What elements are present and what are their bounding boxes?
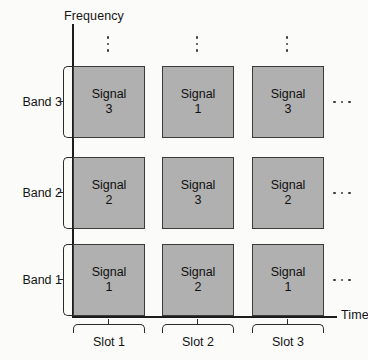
cell-band1-slot2-number: 2 — [195, 280, 202, 295]
time-axis-label: Time — [341, 308, 368, 322]
cell-band1-slot3-word: Signal — [271, 265, 306, 280]
cell-band2-slot2-number: 3 — [195, 193, 202, 208]
cell-band3-slot2-number: 1 — [195, 102, 202, 117]
cell-band3-slot2: Signal 1 — [162, 66, 234, 138]
cell-band1-slot3: Signal 1 — [252, 244, 324, 316]
cell-band1-slot2: Signal 2 — [162, 244, 234, 316]
cell-band2-slot2-word: Signal — [181, 178, 216, 193]
cell-band3-slot3-number: 3 — [285, 102, 292, 117]
cell-band3-slot1: Signal 3 — [73, 66, 145, 138]
frequency-axis-label: Frequency — [64, 9, 124, 23]
band-3-horizontal-ellipsis-icon — [333, 100, 351, 104]
cell-band3-slot3-word: Signal — [271, 87, 306, 102]
cell-band1-slot1-word: Signal — [92, 265, 127, 280]
slot-1-bracket — [73, 324, 145, 333]
cell-band1-slot1: Signal 1 — [73, 244, 145, 316]
cell-band2-slot1-word: Signal — [92, 178, 127, 193]
slot-label-slot-3: Slot 3 — [252, 335, 324, 349]
band-3-bracket — [63, 66, 72, 138]
band-2-bracket — [63, 157, 72, 229]
cell-band3-slot1-word: Signal — [92, 87, 127, 102]
cell-band2-slot3-number: 2 — [285, 193, 292, 208]
cell-band2-slot1: Signal 2 — [73, 157, 145, 229]
slot-3-bracket — [252, 324, 324, 333]
cell-band1-slot3-number: 1 — [285, 280, 292, 295]
cell-band1-slot1-number: 1 — [106, 280, 113, 295]
slot-3-bracket-tick — [287, 319, 288, 325]
cell-band2-slot3-word: Signal — [271, 178, 306, 193]
column-2-vertical-ellipsis-icon — [195, 36, 199, 52]
band-label-band-1: Band 1 — [4, 273, 62, 287]
cell-band3-slot3: Signal 3 — [252, 66, 324, 138]
cell-band3-slot2-word: Signal — [181, 87, 216, 102]
frequency-time-allocation-diagram: Frequency Time Band 3 Signal 3 Signal 1 … — [0, 0, 368, 360]
slot-1-bracket-tick — [108, 319, 109, 325]
slot-2-bracket-tick — [197, 319, 198, 325]
column-3-vertical-ellipsis-icon — [285, 36, 289, 52]
cell-band1-slot2-word: Signal — [181, 265, 216, 280]
band-2-horizontal-ellipsis-icon — [333, 191, 351, 195]
time-axis-line — [72, 316, 337, 318]
band-1-horizontal-ellipsis-icon — [333, 278, 351, 282]
slot-label-slot-1: Slot 1 — [73, 335, 145, 349]
cell-band2-slot1-number: 2 — [106, 193, 113, 208]
cell-band2-slot3: Signal 2 — [252, 157, 324, 229]
band-label-band-2: Band 2 — [4, 186, 62, 200]
column-1-vertical-ellipsis-icon — [106, 36, 110, 52]
cell-band3-slot1-number: 3 — [106, 102, 113, 117]
slot-2-bracket — [162, 324, 234, 333]
slot-label-slot-2: Slot 2 — [162, 335, 234, 349]
band-1-bracket — [63, 244, 72, 316]
cell-band2-slot2: Signal 3 — [162, 157, 234, 229]
band-label-band-3: Band 3 — [4, 95, 62, 109]
